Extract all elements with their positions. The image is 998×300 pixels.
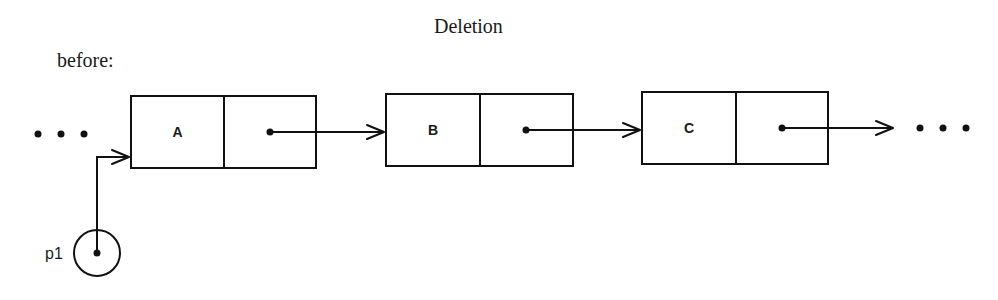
node-value: A xyxy=(172,124,182,140)
pointer-p1: p1 xyxy=(45,150,129,276)
list-node-a: A xyxy=(131,96,384,168)
right-ellipsis-dot xyxy=(963,125,970,132)
left-ellipsis-dots xyxy=(35,131,88,138)
right-ellipsis-dot xyxy=(917,125,924,132)
list-node-c: C xyxy=(642,92,893,164)
right-ellipsis-dots xyxy=(917,125,970,132)
list-nodes: ABC xyxy=(131,92,893,168)
left-ellipsis-dot xyxy=(35,131,42,138)
pointer-label: p1 xyxy=(45,245,63,262)
pointer-line xyxy=(97,157,129,253)
diagram-title: Deletion xyxy=(434,15,503,37)
node-value: B xyxy=(428,122,438,138)
node-value: C xyxy=(684,120,694,136)
left-ellipsis-dot xyxy=(58,131,65,138)
right-ellipsis-dot xyxy=(940,125,947,132)
list-node-b: B xyxy=(386,94,640,166)
linked-list-deletion-diagram: Deletion before: ABC p1 xyxy=(0,0,998,300)
left-ellipsis-dot xyxy=(81,131,88,138)
before-label: before: xyxy=(57,49,114,71)
